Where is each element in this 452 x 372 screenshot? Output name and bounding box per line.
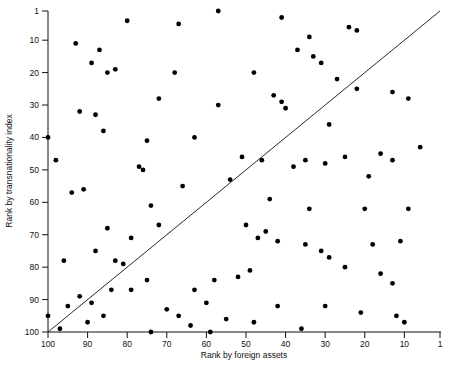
data-point bbox=[343, 265, 348, 270]
diagonal-reference-line bbox=[48, 11, 440, 332]
data-point bbox=[57, 326, 62, 331]
data-point bbox=[145, 138, 150, 143]
data-point bbox=[307, 206, 312, 211]
data-point bbox=[378, 271, 383, 276]
x-tick-label: 90 bbox=[83, 339, 93, 349]
data-point bbox=[46, 313, 51, 318]
data-point bbox=[216, 9, 221, 14]
y-tick-label: 40 bbox=[30, 132, 40, 142]
data-point bbox=[129, 287, 134, 292]
data-point bbox=[188, 323, 193, 328]
data-point bbox=[358, 310, 363, 315]
data-point bbox=[172, 70, 177, 75]
data-points-group bbox=[46, 9, 423, 335]
x-tick-label: 70 bbox=[162, 339, 172, 349]
data-point bbox=[156, 96, 161, 101]
data-point bbox=[248, 268, 253, 273]
data-point bbox=[275, 239, 280, 244]
data-point bbox=[370, 242, 375, 247]
data-point bbox=[354, 86, 359, 91]
data-point bbox=[299, 326, 304, 331]
x-axis-title: Rank by foreign assets bbox=[201, 350, 287, 360]
data-point bbox=[402, 320, 407, 325]
y-tick-label: 50 bbox=[30, 165, 40, 175]
x-tick-label: 60 bbox=[202, 339, 212, 349]
data-point bbox=[271, 93, 276, 98]
data-point bbox=[97, 48, 102, 53]
y-tick-label: 30 bbox=[30, 100, 40, 110]
data-point bbox=[73, 41, 78, 46]
data-point bbox=[208, 330, 213, 335]
data-point bbox=[343, 155, 348, 160]
data-point bbox=[101, 313, 106, 318]
data-point bbox=[279, 99, 284, 104]
data-point bbox=[121, 262, 126, 267]
data-point bbox=[283, 106, 288, 111]
data-point bbox=[327, 122, 332, 127]
data-point bbox=[406, 96, 411, 101]
data-point bbox=[212, 278, 217, 283]
data-point bbox=[176, 313, 181, 318]
data-point bbox=[323, 304, 328, 309]
data-point bbox=[93, 249, 98, 254]
x-tick-label: 40 bbox=[281, 339, 291, 349]
x-tick-label: 100 bbox=[41, 339, 55, 349]
data-point bbox=[141, 167, 146, 172]
data-point bbox=[77, 109, 82, 114]
scatter-plot-figure: 1009080706050403020101 11020304050607080… bbox=[0, 0, 452, 372]
data-point bbox=[89, 300, 94, 305]
data-point bbox=[129, 236, 134, 241]
data-point bbox=[307, 35, 312, 40]
data-point bbox=[291, 164, 296, 169]
data-point bbox=[101, 129, 106, 134]
y-tick-label: 90 bbox=[30, 295, 40, 305]
data-point bbox=[113, 258, 118, 263]
data-point bbox=[354, 28, 359, 33]
data-point bbox=[267, 197, 272, 202]
data-point bbox=[46, 135, 51, 140]
data-point bbox=[335, 77, 340, 82]
data-point bbox=[418, 145, 423, 150]
y-tick-label: 1 bbox=[34, 6, 39, 16]
y-tick-label: 10 bbox=[30, 35, 40, 45]
data-point bbox=[164, 307, 169, 312]
data-point bbox=[327, 255, 332, 260]
data-point bbox=[311, 54, 316, 59]
x-axis-ticks: 1009080706050403020101 bbox=[41, 332, 443, 349]
y-tick-label: 70 bbox=[30, 230, 40, 240]
data-point bbox=[81, 187, 86, 192]
data-point bbox=[137, 164, 142, 169]
data-point bbox=[236, 274, 241, 279]
data-point bbox=[362, 206, 367, 211]
data-point bbox=[244, 223, 249, 228]
data-point bbox=[149, 330, 154, 335]
data-point bbox=[251, 320, 256, 325]
data-point bbox=[390, 158, 395, 163]
x-tick-label: 1 bbox=[438, 339, 443, 349]
data-point bbox=[105, 226, 110, 231]
data-point bbox=[77, 294, 82, 299]
data-point bbox=[263, 229, 268, 234]
x-tick-label: 10 bbox=[400, 339, 410, 349]
data-point bbox=[406, 206, 411, 211]
data-point bbox=[204, 300, 209, 305]
x-tick-label: 20 bbox=[360, 339, 370, 349]
data-point bbox=[295, 48, 300, 53]
data-point bbox=[149, 203, 154, 208]
data-point bbox=[303, 242, 308, 247]
data-point bbox=[378, 151, 383, 156]
x-tick-label: 50 bbox=[241, 339, 251, 349]
data-point bbox=[125, 18, 130, 23]
data-point bbox=[303, 158, 308, 163]
data-point bbox=[390, 90, 395, 95]
chart-canvas: 1009080706050403020101 11020304050607080… bbox=[0, 0, 452, 372]
x-tick-label: 80 bbox=[122, 339, 132, 349]
x-tick-label: 30 bbox=[320, 339, 330, 349]
data-point bbox=[394, 313, 399, 318]
data-point bbox=[156, 223, 161, 228]
data-point bbox=[390, 281, 395, 286]
data-point bbox=[109, 287, 114, 292]
data-point bbox=[93, 112, 98, 117]
y-axis-ticks: 1102030405060708090100 bbox=[25, 6, 48, 337]
data-point bbox=[61, 258, 66, 263]
